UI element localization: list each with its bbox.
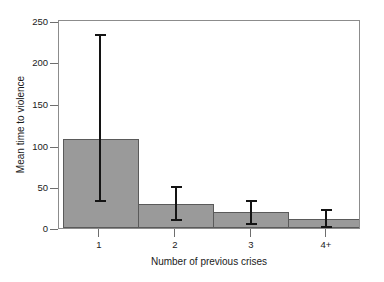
y-axis-title: Mean time to violence bbox=[14, 20, 28, 229]
x-tick-mark-1 bbox=[98, 229, 99, 237]
error-bar-category-4 bbox=[321, 209, 332, 228]
x-tick-label-2: 2 bbox=[155, 239, 195, 250]
y-tick-label-100: 100 bbox=[32, 142, 48, 152]
error-bar-stem bbox=[99, 34, 101, 202]
y-tick-mark-150 bbox=[50, 105, 58, 106]
y-tick-label-50: 50 bbox=[37, 183, 48, 193]
error-bar-cap-upper bbox=[321, 209, 332, 211]
chart-figure: Mean time to violence 250 200 150 100 50… bbox=[0, 0, 384, 282]
y-tick-mark-0 bbox=[50, 229, 58, 230]
y-tick-label-200: 200 bbox=[32, 58, 48, 68]
y-tick-label-150: 150 bbox=[32, 100, 48, 110]
plot-area bbox=[58, 20, 360, 229]
y-tick-label-250: 250 bbox=[32, 17, 48, 27]
y-tick-mark-250 bbox=[50, 22, 58, 23]
x-tick-mark-3 bbox=[250, 229, 251, 237]
x-axis-title: Number of previous crises bbox=[58, 256, 360, 268]
error-bar-cap-upper bbox=[246, 200, 257, 202]
y-tick-mark-200 bbox=[50, 63, 58, 64]
error-bar-category-2 bbox=[171, 186, 182, 221]
error-bar-cap-lower bbox=[321, 226, 332, 228]
error-bar-cap-lower bbox=[95, 200, 106, 202]
y-tick-mark-50 bbox=[50, 188, 58, 189]
error-bar-category-1 bbox=[95, 34, 106, 202]
error-bar-cap-upper bbox=[171, 186, 182, 188]
x-tick-label-4p: 4+ bbox=[306, 239, 346, 250]
error-bar-stem bbox=[250, 200, 252, 225]
y-tick-mark-100 bbox=[50, 147, 58, 148]
x-tick-mark-2 bbox=[174, 229, 175, 237]
x-tick-label-3: 3 bbox=[231, 239, 271, 250]
error-bar-cap-lower bbox=[171, 219, 182, 221]
y-tick-label-0: 0 bbox=[43, 224, 48, 234]
error-bar-category-3 bbox=[246, 200, 257, 225]
error-bar-cap-lower bbox=[246, 223, 257, 225]
error-bar-cap-upper bbox=[95, 34, 106, 36]
x-tick-mark-4p bbox=[325, 229, 326, 237]
x-tick-label-1: 1 bbox=[79, 239, 119, 250]
error-bar-stem bbox=[175, 186, 177, 221]
